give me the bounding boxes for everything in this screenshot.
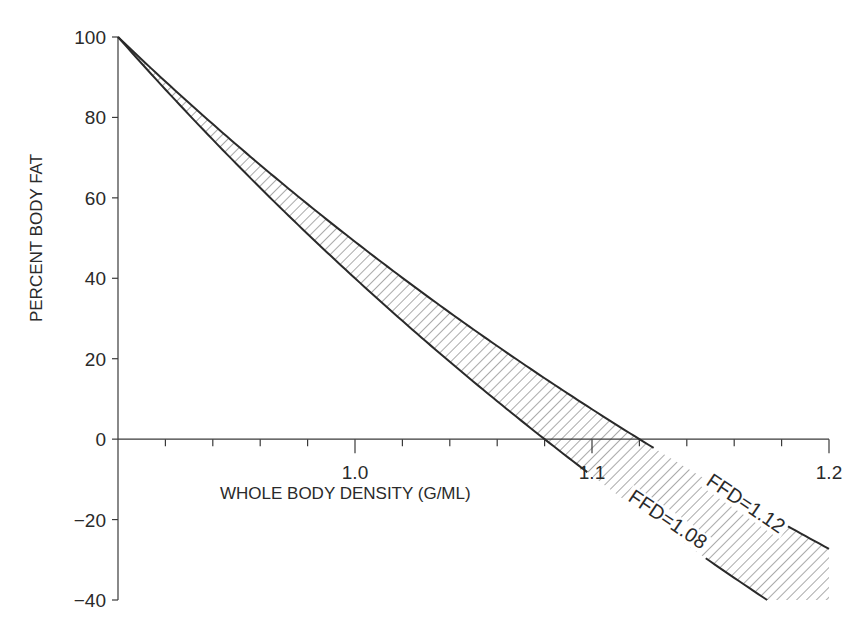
y-tick-label: −20 xyxy=(74,510,106,531)
body-fat-density-chart: 100806040200−20−401.01.11.2 PERCENT BODY… xyxy=(0,0,860,628)
x-tick-label: 1.2 xyxy=(816,462,842,483)
x-tick-label: 1.1 xyxy=(579,462,605,483)
y-tick-label: 100 xyxy=(74,27,106,48)
hatched-band xyxy=(118,37,829,600)
y-tick-label: 20 xyxy=(85,349,106,370)
hatched-region xyxy=(118,37,829,600)
y-tick-label: 60 xyxy=(85,188,106,209)
x-tick-label: 1.0 xyxy=(342,462,368,483)
x-axis-title: WHOLE BODY DENSITY (G/ML) xyxy=(220,484,471,503)
y-tick-label: 40 xyxy=(85,268,106,289)
chart-canvas: 100806040200−20−401.01.11.2 PERCENT BODY… xyxy=(0,0,860,628)
y-tick-label: 80 xyxy=(85,107,106,128)
curve-ffd-112 xyxy=(118,37,654,448)
y-tick-label: −40 xyxy=(74,590,106,611)
y-tick-label: 0 xyxy=(95,429,106,450)
y-axis-title: PERCENT BODY FAT xyxy=(27,154,46,322)
